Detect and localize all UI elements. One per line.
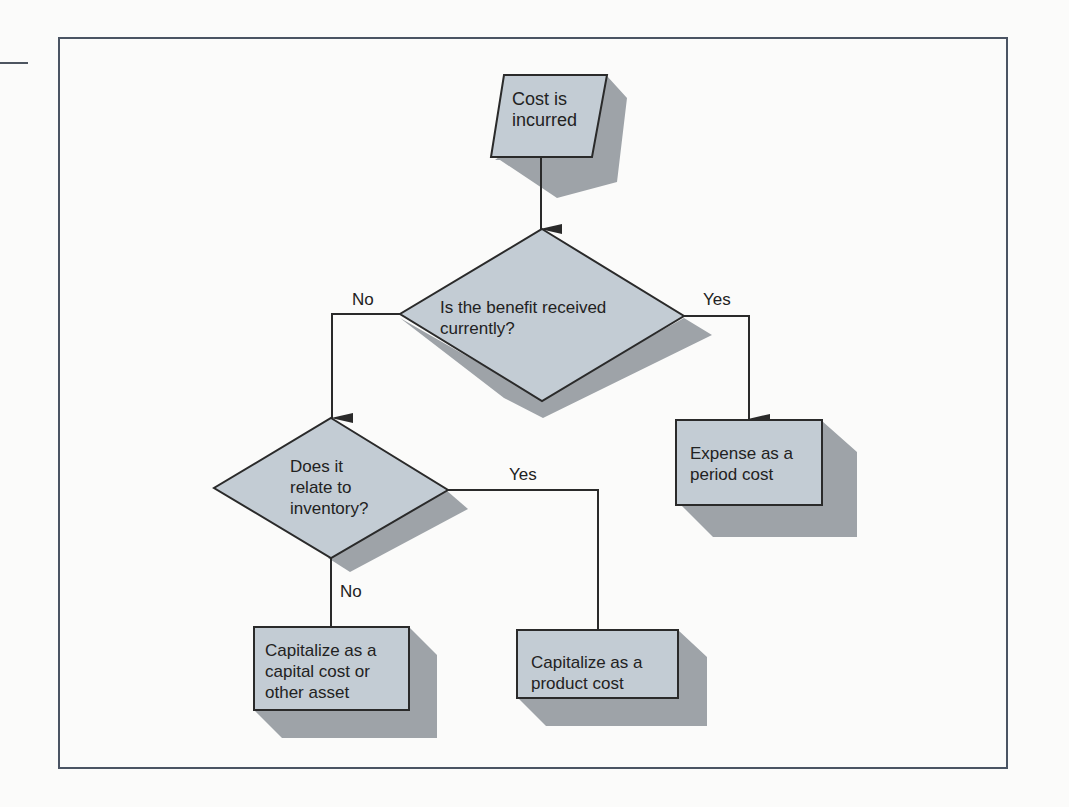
label-inventory-question: Does it relate to inventory? xyxy=(290,456,368,519)
label-product-cost: Capitalize as a product cost xyxy=(531,652,643,694)
label-capital-cost: Capitalize as a capital cost or other as… xyxy=(265,640,377,703)
edge-label-q1-yes: Yes xyxy=(703,290,731,310)
edge-label-q1-no: No xyxy=(352,290,374,310)
edge-label-q2-no: No xyxy=(340,582,362,602)
label-benefit-question: Is the benefit received currently? xyxy=(440,297,606,339)
edge-q1-no xyxy=(332,314,400,418)
label-period-cost: Expense as a period cost xyxy=(690,443,793,485)
label-cost-incurred: Cost is incurred xyxy=(512,89,577,131)
edge-label-q2-yes: Yes xyxy=(509,465,537,485)
edge-q2-yes xyxy=(448,490,598,630)
